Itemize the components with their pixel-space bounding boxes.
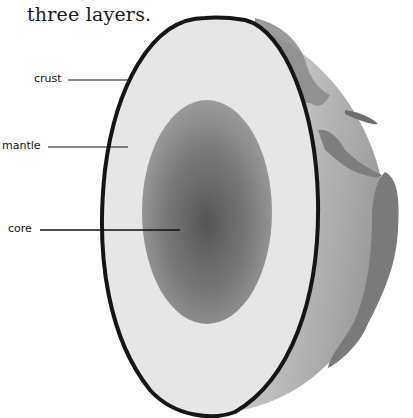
label-mantle: mantle bbox=[2, 139, 41, 152]
core-layer bbox=[142, 100, 272, 324]
label-core: core bbox=[8, 222, 32, 235]
label-crust: crust bbox=[34, 72, 62, 85]
earth-cross-section bbox=[0, 0, 413, 418]
